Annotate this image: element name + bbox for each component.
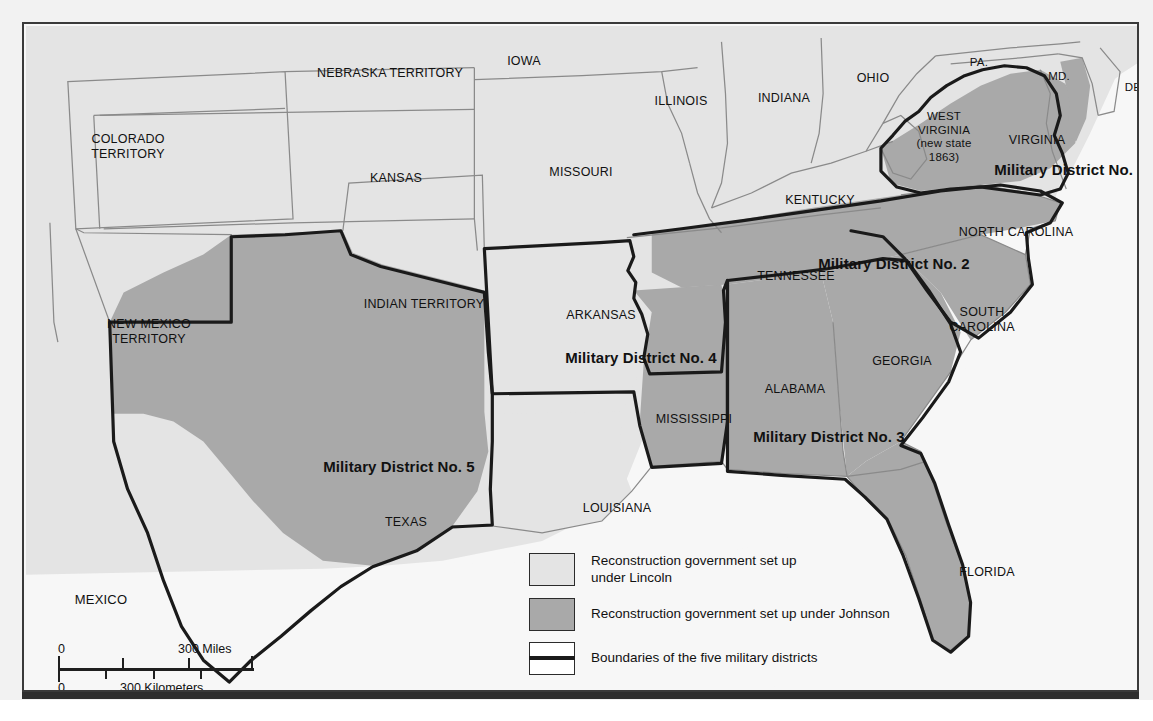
scale-label-km-max: 300 Kilometers — [120, 681, 203, 692]
map-scale-bar: 0 300 Miles 0 300 Kilometers — [58, 644, 288, 692]
map-label-georgia: GEORGIA — [872, 354, 932, 369]
scale-tick-km-1 — [105, 668, 107, 679]
legend-swatch-lincoln — [529, 553, 575, 586]
scale-label-miles-zero: 0 — [58, 642, 65, 656]
map-label-colorado-territory: COLORADOTERRITORY — [91, 132, 165, 162]
map-page: COLORADOTERRITORYNEBRASKA TERRITORYIOWAI… — [0, 0, 1153, 721]
legend-item-johnson: Reconstruction government set up under J… — [529, 598, 949, 631]
map-label-ohio: OHIO — [857, 71, 890, 86]
scale-tick-km-3 — [200, 668, 202, 679]
map-label-mississippi: MISSISSIPPI — [656, 412, 733, 427]
map-label-west-virginia: WESTVIRGINIA(new state1863) — [916, 110, 971, 164]
map-label-texas: TEXAS — [385, 515, 427, 530]
map-label-maryland: MD. — [1048, 70, 1070, 84]
legend-label-boundary: Boundaries of the five military district… — [591, 649, 818, 666]
map-label-south-carolina: SOUTHCAROLINA — [949, 305, 1015, 335]
scale-tick-miles-end — [251, 656, 253, 670]
map-label-illinois: ILLINOIS — [654, 94, 707, 109]
legend-swatch-johnson — [529, 598, 575, 631]
map-label-virginia: VIRGINIA — [1009, 133, 1065, 148]
legend-label-lincoln: Reconstruction government set upunder Li… — [591, 552, 797, 587]
legend-item-lincoln: Reconstruction government set upunder Li… — [529, 552, 949, 587]
map-label-missouri: MISSOURI — [549, 165, 612, 180]
map-label-military-district-2: Military District No. 2 — [818, 255, 970, 273]
map-label-arkansas: ARKANSAS — [566, 308, 636, 323]
map-label-military-district-1: Military District No. 1 — [994, 161, 1139, 179]
legend-label-johnson: Reconstruction government set up under J… — [591, 605, 890, 622]
map-label-military-district-5: Military District No. 5 — [323, 458, 475, 476]
scale-tick-miles-2 — [188, 658, 190, 669]
map-label-tennessee: TENNESSEE — [757, 269, 835, 284]
scale-tick-km-2 — [153, 668, 155, 679]
map-label-new-mexico-territory: NEW MEXICOTERRITORY — [107, 317, 191, 347]
map-label-kansas: KANSAS — [370, 171, 422, 186]
map-label-military-district-4: Military District No. 4 — [565, 349, 717, 367]
map-label-pennsylvania: PA. — [970, 56, 988, 70]
map-label-nebraska-territory: NEBRASKA TERRITORY — [317, 66, 463, 81]
map-label-louisiana: LOUISIANA — [583, 501, 652, 516]
scale-label-km-zero: 0 — [58, 681, 65, 692]
map-label-military-district-3: Military District No. 3 — [753, 428, 905, 446]
scale-tick-miles-1 — [122, 658, 124, 669]
map-frame: COLORADOTERRITORYNEBRASKA TERRITORYIOWAI… — [22, 22, 1139, 692]
scale-label-miles-max: 300 Miles — [178, 642, 232, 656]
map-label-florida: FLORIDA — [959, 565, 1015, 580]
map-label-alabama: ALABAMA — [765, 382, 825, 397]
map-label-delaware: DEL. — [1125, 81, 1139, 95]
map-label-mexico: MEXICO — [75, 592, 127, 607]
map-label-north-carolina: NORTH CAROLINA — [959, 225, 1073, 240]
plate-bottom-edge — [22, 692, 1139, 699]
map-label-indiana: INDIANA — [758, 91, 810, 106]
scale-tick-km-start — [58, 668, 60, 682]
scale-bar-rule — [58, 668, 254, 671]
map-label-kentucky: KENTUCKY — [785, 193, 855, 208]
legend-swatch-boundary — [529, 642, 575, 675]
legend-item-boundary: Boundaries of the five military district… — [529, 642, 949, 675]
map-legend: Reconstruction government set upunder Li… — [529, 552, 949, 686]
map-label-iowa: IOWA — [507, 54, 541, 69]
map-label-indian-territory: INDIAN TERRITORY — [364, 297, 485, 312]
